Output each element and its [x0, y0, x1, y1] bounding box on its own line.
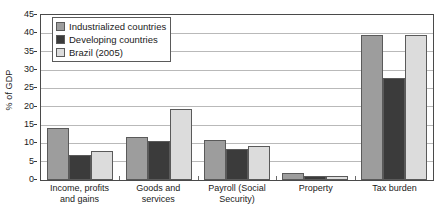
y-tick-label: 45 — [24, 10, 34, 19]
y-tick-mark — [34, 179, 37, 180]
legend-item[interactable]: Developing countries — [56, 33, 166, 46]
bar — [204, 140, 226, 180]
bar — [47, 128, 69, 180]
bar — [91, 151, 113, 180]
y-tick-label: 30 — [24, 65, 34, 74]
bar — [126, 137, 148, 180]
category-separator — [276, 176, 277, 180]
bar-chart: % of GDP 051015202530354045 Income, prof… — [0, 0, 446, 218]
y-tick-label: 25 — [24, 83, 34, 92]
legend: Industrialized countriesDeveloping count… — [52, 17, 171, 62]
bar — [361, 35, 383, 180]
y-tick-label: 20 — [24, 101, 34, 110]
x-tick-label: Tax burden — [355, 183, 434, 217]
x-axis-ticks: Income, profits and gainsGoods and servi… — [40, 183, 434, 217]
bar — [326, 176, 348, 180]
legend-swatch-icon — [56, 48, 65, 57]
y-tick-label: 40 — [24, 28, 34, 37]
y-tick-mark — [34, 14, 37, 15]
y-axis-title-text: % of GDP — [4, 70, 14, 111]
y-axis-ticks: 051015202530354045 — [17, 12, 37, 184]
bar — [226, 149, 248, 180]
x-tick-label: Payroll (Social Security) — [198, 183, 277, 217]
legend-label: Brazil (2005) — [69, 48, 123, 58]
x-tick-label: Property — [276, 183, 355, 217]
bar — [69, 155, 91, 180]
x-tick-label: Income, profits and gains — [40, 183, 119, 217]
bar — [248, 146, 270, 180]
legend-label: Developing countries — [69, 35, 158, 45]
y-tick-mark — [34, 161, 37, 162]
bar-group — [361, 15, 427, 180]
bar-group — [204, 15, 270, 180]
x-tick-label: Goods and services — [119, 183, 198, 217]
bar — [148, 141, 170, 180]
category-separator — [198, 176, 199, 180]
y-tick-label: 10 — [24, 138, 34, 147]
legend-item[interactable]: Brazil (2005) — [56, 46, 166, 59]
category-separator — [119, 176, 120, 180]
y-tick-mark — [34, 142, 37, 143]
y-tick-mark — [34, 32, 37, 33]
legend-swatch-icon — [56, 22, 65, 31]
y-tick-mark — [34, 69, 37, 70]
legend-label: Industrialized countries — [69, 22, 166, 32]
y-tick-mark — [34, 51, 37, 52]
bar — [304, 176, 326, 180]
bar — [282, 173, 304, 180]
y-tick-mark — [34, 124, 37, 125]
bar — [170, 109, 192, 181]
bar — [405, 35, 427, 180]
y-tick-label: 15 — [24, 120, 34, 129]
y-tick-label: 35 — [24, 46, 34, 55]
legend-item[interactable]: Industrialized countries — [56, 20, 166, 33]
y-tick-mark — [34, 106, 37, 107]
y-tick-mark — [34, 87, 37, 88]
y-axis-title: % of GDP — [0, 0, 18, 180]
legend-swatch-icon — [56, 35, 65, 44]
bar-group — [282, 15, 348, 180]
category-separator — [355, 176, 356, 180]
bar — [383, 78, 405, 180]
